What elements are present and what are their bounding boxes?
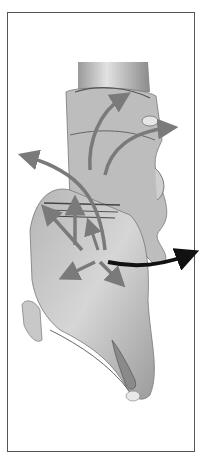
anatomical-illustration	[0, 0, 202, 457]
lower-structure	[22, 189, 154, 401]
